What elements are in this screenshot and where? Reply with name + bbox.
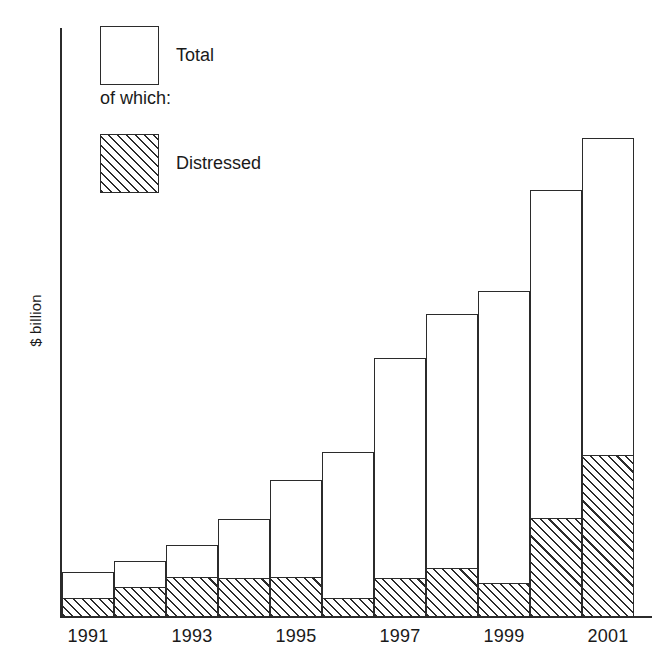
x-tick-label-1999: 1999 [464, 626, 544, 647]
bar-distressed-1995 [270, 577, 322, 617]
bar-group-1993 [166, 545, 218, 617]
bar-group-1991 [62, 572, 114, 617]
bar-distressed-1997 [374, 578, 426, 617]
bar-group-2000 [530, 190, 582, 617]
bar-total-1999 [478, 291, 530, 617]
bar-distressed-1992 [114, 587, 166, 617]
bar-group-1997 [374, 358, 426, 617]
x-tick-label-1997: 1997 [360, 626, 440, 647]
bar-group-1994 [218, 519, 270, 617]
bar-chart: $ billion Total of which: Distressed 199… [0, 0, 670, 671]
bar-total-1996 [322, 452, 374, 617]
bar-distressed-2001 [582, 455, 634, 617]
x-tick-label-1991: 1991 [48, 626, 128, 647]
bar-distressed-1998 [426, 568, 478, 617]
y-axis-title: $ billion [27, 266, 44, 376]
bar-group-1996 [322, 452, 374, 617]
bar-distressed-1994 [218, 578, 270, 617]
bar-group-1999 [478, 291, 530, 617]
bar-group-1992 [114, 561, 166, 617]
x-tick-label-1995: 1995 [256, 626, 336, 647]
plot-area [62, 28, 634, 617]
bar-group-1995 [270, 480, 322, 617]
bar-distressed-1991 [62, 598, 114, 617]
bar-distressed-1999 [478, 583, 530, 617]
bar-distressed-2000 [530, 518, 582, 617]
bar-distressed-1996 [322, 598, 374, 617]
x-tick-label-2001: 2001 [568, 626, 648, 647]
bar-group-2001 [582, 138, 634, 617]
bar-group-1998 [426, 314, 478, 617]
bar-distressed-1993 [166, 577, 218, 617]
x-tick-label-1993: 1993 [152, 626, 232, 647]
